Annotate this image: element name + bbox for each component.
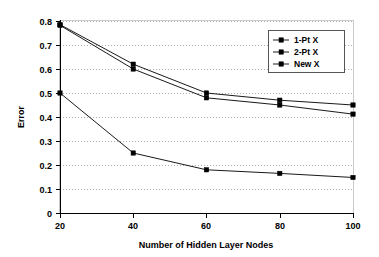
x-tick-label: 80 [275, 221, 285, 231]
data-point-marker [204, 91, 208, 95]
x-tick-label: 60 [201, 221, 211, 231]
chart-legend: 1-Pt X 2-Pt X New X [269, 31, 345, 73]
data-point-marker [278, 98, 282, 102]
chart-figure: 0.8 0.7 0.6 0.5 0.4 0.3 0.2 0.1 0 20 40 … [0, 0, 379, 257]
legend-label: New X [294, 59, 320, 69]
legend-marker-square [279, 50, 283, 54]
data-point-marker [204, 96, 208, 100]
data-point-marker [131, 151, 135, 155]
data-point-marker [278, 171, 282, 175]
y-tick-label: 0.3 [39, 137, 52, 147]
data-point-marker [351, 175, 355, 179]
data-point-marker [351, 103, 355, 107]
data-point-marker [204, 168, 208, 172]
y-tick-label: 0.4 [39, 113, 52, 123]
y-tick-label: 0.2 [39, 161, 52, 171]
legend-marker-square [279, 62, 283, 66]
y-tick-label: 0.7 [39, 41, 52, 51]
y-tick-label: 0 [47, 209, 52, 219]
x-tick-label: 100 [345, 221, 360, 231]
y-tick-label: 0.6 [39, 65, 52, 75]
y-axis-title: Error [16, 106, 26, 129]
x-axis-tick-labels: 20 40 60 80 100 [55, 221, 361, 231]
error-vs-hidden-nodes-line-chart: 0.8 0.7 0.6 0.5 0.4 0.3 0.2 0.1 0 20 40 … [0, 0, 379, 257]
data-point-marker [58, 91, 62, 95]
data-point-marker [131, 67, 135, 71]
y-axis-tick-labels: 0.8 0.7 0.6 0.5 0.4 0.3 0.2 0.1 0 [39, 17, 52, 219]
y-tick-label: 0.1 [39, 185, 52, 195]
y-tick-label: 0.5 [39, 89, 52, 99]
legend-label: 2-Pt X [294, 47, 318, 57]
data-point-marker [58, 23, 62, 27]
x-axis-title: Number of Hidden Layer Nodes [139, 240, 274, 250]
data-point-marker [351, 112, 355, 116]
x-tick-label: 20 [55, 221, 65, 231]
legend-label: 1-Pt X [294, 35, 318, 45]
x-tick-label: 40 [128, 221, 138, 231]
legend-marker-square [279, 38, 283, 42]
series-new-x [58, 91, 355, 180]
data-point-marker [131, 62, 135, 66]
y-tick-label: 0.8 [39, 17, 52, 27]
data-point-marker [278, 103, 282, 107]
